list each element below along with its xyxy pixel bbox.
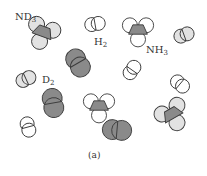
- molecule-nh3: [83, 94, 114, 123]
- molecule-nd3: [151, 94, 195, 138]
- molecule-h2: [84, 15, 107, 32]
- molecule-n2: [62, 45, 94, 80]
- molecule-d2: [172, 25, 196, 45]
- label-d2: D2: [42, 74, 55, 87]
- molecule-h2: [168, 72, 193, 96]
- label-h2: H2: [94, 36, 107, 49]
- molecule-n2: [41, 87, 66, 119]
- label-nh3: NH3: [146, 44, 168, 57]
- molecule-h2: [120, 58, 143, 83]
- molecule-diagram: ND3 H2 NH3 D2 (a): [0, 0, 207, 176]
- molecule-d2: [14, 68, 39, 89]
- caption: (a): [88, 150, 100, 160]
- diagram-canvas: ND3 H2 NH3 D2 (a): [0, 0, 207, 176]
- molecule-nh3: [122, 18, 153, 47]
- molecule-h2: [19, 115, 38, 138]
- label-nd3: ND3: [15, 11, 36, 24]
- molecule-n2: [101, 119, 132, 141]
